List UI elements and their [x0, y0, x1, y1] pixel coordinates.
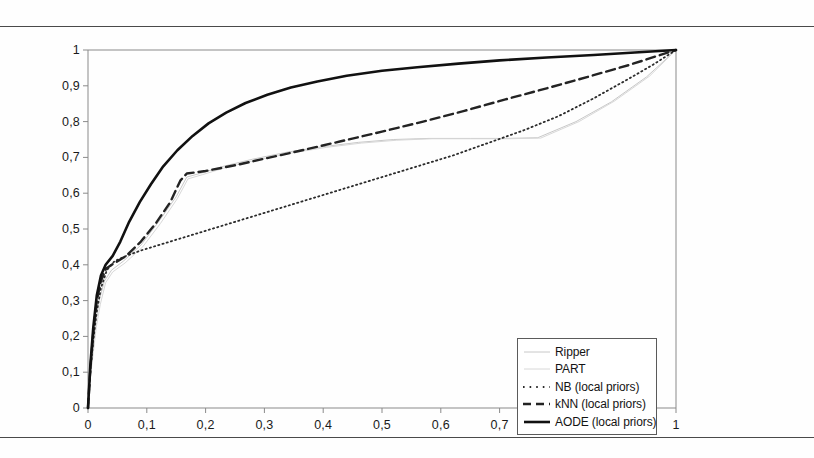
- y-axis-tick-label: 0,2: [36, 329, 80, 343]
- y-axis-tick-label: 0: [36, 401, 80, 415]
- x-axis-tick-label: 0,5: [373, 418, 391, 432]
- legend-line-swatch: [522, 363, 552, 375]
- legend-item: Ripper: [522, 343, 651, 361]
- x-axis-tick-label: 0,2: [197, 418, 215, 432]
- chart-legend: RipperPARTNB (local priors)kNN (local pr…: [517, 338, 657, 435]
- page-rule-bottom: [0, 437, 814, 438]
- legend-item: kNN (local priors): [522, 396, 651, 414]
- roc-chart: 00,10,20,30,40,50,60,70,80,9100,10,20,30…: [0, 30, 814, 435]
- y-axis-tick-label: 1: [36, 43, 80, 57]
- legend-item-label: PART: [555, 363, 586, 375]
- legend-line-swatch: [522, 416, 552, 428]
- y-axis-tick-label: 0,3: [36, 294, 80, 308]
- legend-line-swatch: [522, 398, 552, 410]
- y-axis-tick-label: 0,7: [36, 150, 80, 164]
- legend-line-swatch: [522, 381, 552, 393]
- scanned-page: 00,10,20,30,40,50,60,70,80,9100,10,20,30…: [0, 0, 814, 458]
- legend-item-label: NB (local priors): [555, 381, 639, 393]
- x-axis-tick-label: 0,4: [314, 418, 332, 432]
- legend-item: NB (local priors): [522, 378, 651, 396]
- legend-item-label: Ripper: [555, 346, 590, 358]
- x-axis-tick-label: 0,7: [491, 418, 509, 432]
- legend-item: AODE (local priors): [522, 413, 651, 431]
- y-axis-tick-label: 0,6: [36, 186, 80, 200]
- legend-item-label: kNN (local priors): [555, 398, 646, 410]
- y-axis-tick-label: 0,8: [36, 115, 80, 129]
- y-axis-tick-label: 0,4: [36, 258, 80, 272]
- y-axis-tick-label: 0,1: [36, 365, 80, 379]
- legend-item: PART: [522, 361, 651, 379]
- chart-canvas: [0, 30, 814, 435]
- legend-line-swatch: [522, 346, 552, 358]
- x-axis-tick-label: 1: [672, 418, 679, 432]
- y-axis-tick-label: 0,9: [36, 79, 80, 93]
- page-rule-top: [0, 26, 814, 27]
- legend-item-label: AODE (local priors): [555, 416, 656, 428]
- x-axis-tick-label: 0,1: [138, 418, 156, 432]
- x-axis-tick-label: 0,6: [432, 418, 450, 432]
- x-axis-tick-label: 0: [84, 418, 91, 432]
- y-axis-tick-label: 0,5: [36, 222, 80, 236]
- x-axis-tick-label: 0,3: [255, 418, 273, 432]
